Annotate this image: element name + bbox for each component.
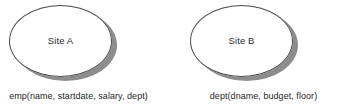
site-a-label: Site A xyxy=(9,5,112,77)
site-a-ellipse[interactable]: Site A xyxy=(0,0,157,86)
site-a-relation-caption: emp(name, startdate, salary, dept) xyxy=(0,91,157,101)
diagram-canvas: Site A emp(name, startdate, salary, dept… xyxy=(0,0,338,111)
site-b-relation-caption: dept(dname, budget, floor) xyxy=(185,91,338,101)
site-group-b: Site B dept(dname, budget, floor) xyxy=(181,0,338,86)
site-group-a: Site A emp(name, startdate, salary, dept… xyxy=(0,0,157,86)
site-b-ellipse[interactable]: Site B xyxy=(181,0,338,86)
site-b-label: Site B xyxy=(190,5,293,77)
